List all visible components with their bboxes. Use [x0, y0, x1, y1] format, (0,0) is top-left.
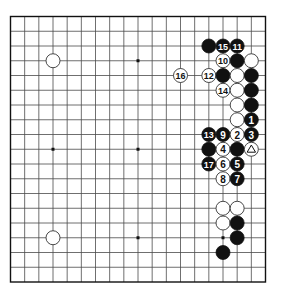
move-number: 2 [234, 130, 240, 141]
white-stone-8: 8 [216, 172, 230, 186]
white-stone-disc [46, 231, 60, 245]
white-stone-4: 4 [216, 142, 230, 156]
move-number: 9 [220, 130, 226, 141]
black-stone-disc [244, 83, 258, 97]
move-number: 4 [220, 144, 226, 155]
white-stone-disc [216, 216, 230, 230]
move-number: 1 [249, 115, 255, 126]
black-stone-disc [216, 69, 230, 83]
move-number: 5 [234, 159, 240, 170]
black-stone-disc [216, 246, 230, 260]
black-stone-11: 11 [230, 39, 244, 53]
white-stone [244, 142, 258, 156]
black-stone-5: 5 [230, 157, 244, 171]
move-number: 10 [218, 56, 228, 66]
star-point [52, 148, 55, 151]
white-stone-16: 16 [174, 69, 188, 83]
white-stone-disc [46, 54, 60, 68]
white-stone [230, 98, 244, 112]
black-stone-disc [230, 231, 244, 245]
black-stone-3: 3 [244, 128, 258, 142]
move-number: 14 [218, 86, 228, 96]
black-stone [244, 69, 258, 83]
move-number: 11 [232, 42, 242, 52]
white-stone-6: 6 [216, 157, 230, 171]
black-stone-17: 17 [202, 157, 216, 171]
star-point [137, 236, 140, 239]
white-stone-10: 10 [216, 54, 230, 68]
white-stone-12: 12 [202, 69, 216, 83]
black-stone [202, 39, 216, 53]
white-stone [230, 201, 244, 215]
star-point [137, 59, 140, 62]
white-stone-disc [230, 201, 244, 215]
white-stone [46, 54, 60, 68]
black-stone [244, 83, 258, 97]
white-stone-disc [230, 69, 244, 83]
black-stone [230, 231, 244, 245]
white-stone [230, 113, 244, 127]
white-stone-disc [244, 54, 258, 68]
black-stone-disc [244, 69, 258, 83]
move-number: 3 [249, 130, 255, 141]
move-number: 7 [234, 174, 240, 185]
black-stone-13: 13 [202, 128, 216, 142]
black-stone [202, 142, 216, 156]
move-number: 8 [220, 174, 226, 185]
black-stone [216, 246, 230, 260]
black-stone-15: 15 [216, 39, 230, 53]
black-stone-disc [202, 142, 216, 156]
white-stone-14: 14 [216, 83, 230, 97]
black-stone-1: 1 [244, 113, 258, 127]
move-number: 16 [175, 71, 185, 81]
black-stone [244, 98, 258, 112]
black-stone [230, 216, 244, 230]
move-number: 17 [204, 160, 214, 170]
black-stone-disc [230, 142, 244, 156]
white-stone [216, 216, 230, 230]
black-stone-disc [230, 54, 244, 68]
black-stone-disc [202, 39, 216, 53]
white-stone [244, 54, 258, 68]
black-stone-9: 9 [216, 128, 230, 142]
black-stone-7: 7 [230, 172, 244, 186]
white-stone-2: 2 [230, 128, 244, 142]
move-number: 13 [204, 130, 214, 140]
white-stone-disc [230, 98, 244, 112]
white-stone-disc [216, 201, 230, 215]
white-stone-disc [230, 113, 244, 127]
star-point [137, 148, 140, 151]
black-stone [230, 54, 244, 68]
black-stone-disc [244, 98, 258, 112]
white-stone [230, 83, 244, 97]
go-board: 1511101612141139234176587 [0, 0, 281, 291]
star-point [222, 236, 225, 239]
white-stone [46, 231, 60, 245]
black-stone-disc [230, 216, 244, 230]
black-stone [216, 69, 230, 83]
white-stone-disc [230, 83, 244, 97]
move-number: 12 [204, 71, 214, 81]
white-stone [230, 69, 244, 83]
move-number: 15 [218, 42, 228, 52]
black-stone [230, 142, 244, 156]
white-stone [216, 201, 230, 215]
move-number: 6 [220, 159, 226, 170]
